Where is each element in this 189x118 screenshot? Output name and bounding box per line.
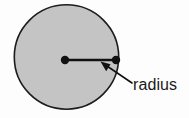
circle-radius-figure: radius	[0, 0, 189, 118]
center-point-marker	[61, 56, 69, 64]
radius-label: radius	[133, 76, 177, 93]
edge-point-marker	[112, 56, 120, 64]
diagram-canvas: radius	[0, 0, 189, 118]
